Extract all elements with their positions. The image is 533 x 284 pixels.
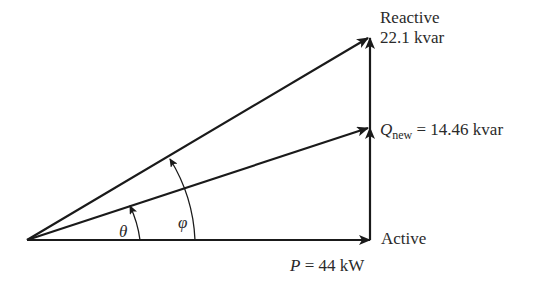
power-triangle-diagram (0, 0, 533, 284)
theta-arc (130, 206, 140, 240)
phi-label: φ (178, 213, 187, 232)
reactive-value-label: 22.1 kvar (380, 28, 444, 47)
apparent-power-old-vector (27, 38, 368, 240)
q-symbol: Q (380, 120, 392, 139)
p-label: P = 44 kW (290, 256, 364, 275)
active-title-label: Active (381, 229, 426, 248)
reactive-title-label: Reactive (380, 8, 439, 27)
q-new-value: = 14.46 kvar (417, 120, 504, 139)
q-subscript: new (392, 128, 412, 142)
apparent-power-new-vector (27, 128, 368, 240)
theta-label: θ (119, 222, 127, 241)
p-value: = 44 kW (305, 256, 365, 275)
p-symbol: P (290, 256, 300, 275)
q-new-label: Qnew = 14.46 kvar (380, 120, 503, 141)
